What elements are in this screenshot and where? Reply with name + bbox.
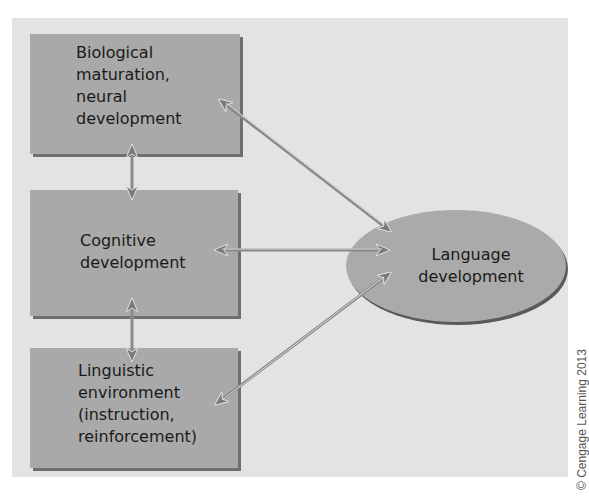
arrow-biological-language (220, 100, 390, 231)
copyright-credit: © Cengage Learning 2013 (575, 349, 589, 490)
